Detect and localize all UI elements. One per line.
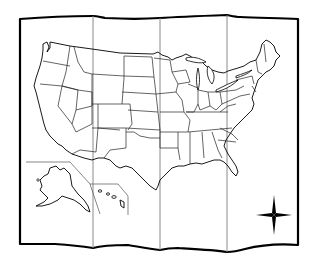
folded-us-outline-map [0, 0, 314, 268]
paper-frame [20, 15, 298, 252]
